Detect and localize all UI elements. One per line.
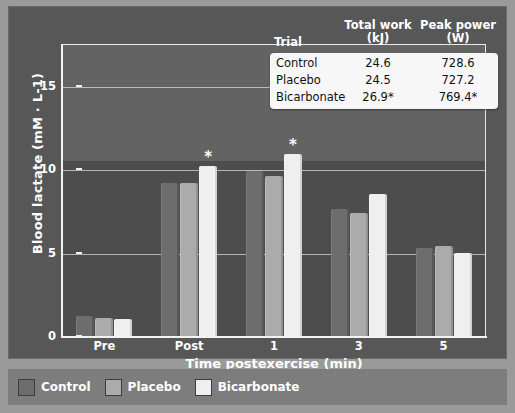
cell-total-work: 24.5	[342, 72, 414, 89]
bar-placebo-pre	[95, 318, 113, 336]
x-tick-label-1: 1	[270, 339, 278, 353]
cell-peak-power: 728.6	[418, 55, 498, 72]
x-axis-line	[61, 336, 487, 338]
bar-placebo-1	[265, 176, 283, 336]
header-total-work-line2: (kJ)	[342, 32, 414, 45]
bar-control-pre	[76, 316, 94, 336]
y-tick-mark-0	[76, 335, 82, 337]
x-tick-label-post: Post	[175, 339, 204, 353]
y-tick-mark-15	[76, 85, 82, 87]
y-axis-line	[61, 44, 63, 337]
table-row: Control24.6728.6	[270, 55, 498, 72]
bar-bicarbonate-pre	[114, 319, 132, 336]
header-peak-power-line2: (W)	[418, 32, 498, 45]
gridline-10	[62, 170, 485, 171]
bar-bicarbonate-1	[284, 154, 302, 336]
x-tick-label-5: 5	[440, 339, 448, 353]
header-trial: Trial	[274, 36, 302, 49]
table-row: Bicarbonate26.9*769.4*	[270, 89, 498, 106]
cell-trial: Placebo	[276, 72, 321, 89]
bar-placebo-5	[435, 246, 453, 336]
cell-peak-power: 769.4*	[418, 89, 498, 106]
bar-placebo-3	[350, 213, 368, 336]
legend-item-bicarbonate[interactable]: Bicarbonate	[195, 379, 300, 396]
significance-star-1: *	[289, 138, 297, 153]
x-tick-label-3: 3	[355, 339, 363, 353]
chart-panel: ** 051015 Blood lactate (mM · L-1) PrePo…	[8, 6, 507, 359]
header-total-work: Total work (kJ)	[342, 19, 414, 45]
cell-trial: Bicarbonate	[276, 89, 345, 106]
inset-summary-table: Trial Total work (kJ) Peak power (W) Con…	[270, 16, 498, 138]
legend-label-control: Control	[41, 380, 91, 394]
legend-item-control[interactable]: Control	[18, 379, 91, 396]
bar-bicarbonate-3	[369, 194, 387, 336]
legend-label-placebo: Placebo	[128, 380, 181, 394]
cell-trial: Control	[276, 55, 318, 72]
cell-total-work: 26.9*	[342, 89, 414, 106]
inset-table-header: Trial Total work (kJ) Peak power (W)	[270, 16, 498, 52]
legend-swatch-control	[18, 379, 35, 396]
bar-control-5	[416, 248, 434, 336]
legend-item-placebo[interactable]: Placebo	[105, 379, 181, 396]
bar-bicarbonate-5	[454, 253, 472, 336]
cell-peak-power: 727.2	[418, 72, 498, 89]
table-row: Placebo24.5727.2	[270, 72, 498, 89]
significance-star-post: *	[204, 150, 212, 165]
legend-label-bicarbonate: Bicarbonate	[218, 380, 300, 394]
legend-swatch-bicarbonate	[195, 379, 212, 396]
header-peak-power: Peak power (W)	[418, 19, 498, 45]
y-tick-mark-5	[76, 252, 82, 254]
inset-table-body: Control24.6728.6Placebo24.5727.2Bicarbon…	[270, 53, 498, 109]
legend: ControlPlaceboBicarbonate	[18, 369, 299, 405]
figure-container: ** 051015 Blood lactate (mM · L-1) PrePo…	[0, 0, 515, 413]
bar-control-1	[246, 171, 264, 336]
y-tick-mark-10	[76, 168, 82, 170]
cell-total-work: 24.6	[342, 55, 414, 72]
y-tick-label-0: 0	[48, 329, 56, 343]
bar-control-3	[331, 209, 349, 336]
bar-control-post	[161, 183, 179, 337]
y-axis-title: Blood lactate (mM · L-1)	[30, 39, 45, 289]
bar-bicarbonate-post	[199, 166, 217, 336]
legend-swatch-placebo	[105, 379, 122, 396]
legend-band: ControlPlaceboBicarbonate	[8, 369, 507, 405]
x-tick-label-pre: Pre	[93, 339, 115, 353]
y-tick-label-5: 5	[48, 246, 56, 260]
bar-placebo-post	[180, 183, 198, 337]
